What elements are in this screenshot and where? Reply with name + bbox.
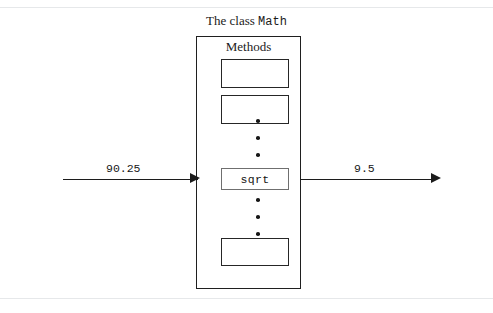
input-arrowhead-icon [190, 173, 200, 183]
input-value-label: 90.25 [106, 162, 141, 175]
vertical-ellipsis-icon-upper [256, 119, 262, 160]
figure-caption: The class Math [0, 13, 493, 29]
ellipsis-dot [256, 119, 260, 123]
caption-class-name: Math [258, 15, 287, 29]
method-slot-sqrt: sqrt [221, 168, 289, 190]
vertical-ellipsis-icon-lower [256, 198, 262, 239]
ellipsis-dot [256, 136, 260, 140]
output-value-label: 9.5 [354, 162, 375, 175]
methods-label: Methods [196, 39, 301, 55]
diagram-canvas: The class Math Methods sqrt 90.25 9.5 [0, 0, 493, 313]
page-rule-bottom [0, 298, 493, 299]
ellipsis-dot [256, 232, 260, 236]
ellipsis-dot [256, 215, 260, 219]
ellipsis-dot [256, 198, 260, 202]
ellipsis-dot [256, 153, 260, 157]
method-slot-1 [221, 59, 289, 88]
page-rule-top [0, 7, 493, 8]
method-label-sqrt: sqrt [241, 173, 270, 186]
method-slot-4 [221, 238, 289, 266]
output-flow-line [300, 179, 434, 180]
output-arrowhead-icon [431, 173, 441, 183]
method-slot-2 [221, 95, 289, 124]
input-flow-line [63, 179, 198, 180]
caption-prefix: The class [206, 13, 255, 28]
